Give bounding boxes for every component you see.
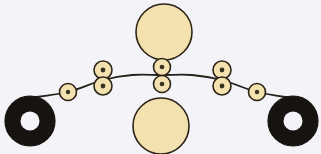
diagram-canvas [0, 0, 321, 154]
bead-center-top [154, 59, 171, 76]
bead-center-bottom [154, 76, 171, 93]
bead-right-outer-dot [255, 90, 259, 94]
diagram-svg [0, 0, 321, 154]
ring-left-hole [21, 112, 40, 131]
ring-left [5, 96, 55, 146]
ring-right [268, 96, 318, 146]
bead-right-outer [249, 84, 266, 101]
bead-right-pair-top-dot [220, 68, 225, 73]
disc-bottom [133, 98, 189, 154]
bead-center-top-dot [160, 65, 165, 70]
bead-center-bottom-dot [160, 82, 165, 87]
bead-left-outer-dot [66, 90, 70, 94]
ring-right-hole [284, 112, 303, 131]
bead-left-pair-top-dot [101, 68, 106, 73]
disc-top [136, 4, 192, 60]
bead-right-pair-bottom-dot [220, 84, 225, 89]
bead-left-pair-bottom [94, 77, 112, 95]
bead-left-outer [60, 84, 77, 101]
bead-right-pair-bottom [213, 77, 231, 95]
bead-left-pair-bottom-dot [101, 84, 106, 89]
